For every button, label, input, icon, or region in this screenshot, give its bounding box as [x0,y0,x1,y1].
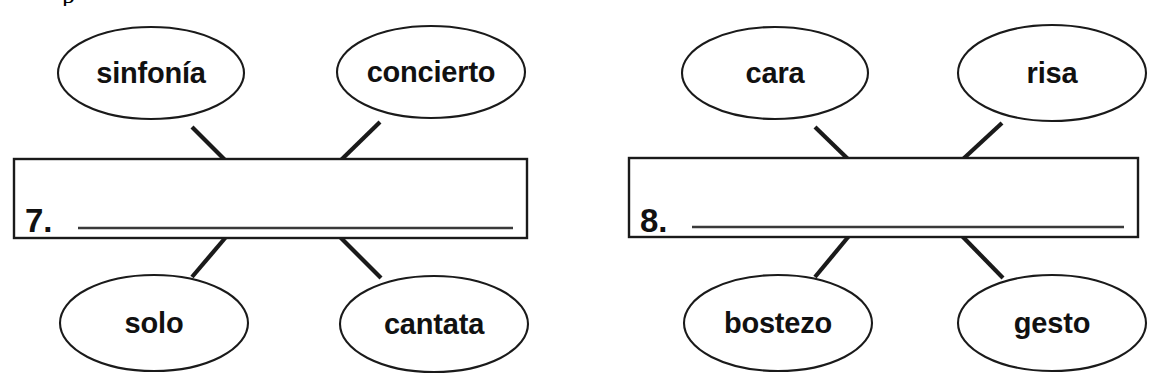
bubble-8-top-left[interactable]: cara [682,27,868,119]
connector-8-bottom-left [815,236,849,277]
answer-box-8[interactable] [629,158,1138,237]
connector-8-bottom-right [962,236,1003,278]
connector-7-bottom-left [192,237,226,277]
connector-8-top-left [815,127,849,160]
item-number-7: 7. [25,202,53,239]
word-web-diagram: 7. sinfonía concierto solo cantata [0,0,1154,390]
bubble-8-top-right[interactable]: risa [958,25,1146,121]
exercise-group-8: 8. cara risa bostezo gesto [629,25,1146,371]
bubble-label: solo [125,307,184,339]
worksheet-page: p 7. sinfonía concierto [0,0,1154,390]
bubble-label: gesto [1014,307,1090,339]
bubble-label: cantata [384,308,485,340]
item-number-8: 8. [640,202,668,239]
bubble-7-bottom-right[interactable]: cantata [340,276,528,372]
bubble-label: concierto [367,56,496,88]
bubble-7-top-right[interactable]: concierto [337,26,525,118]
bubble-label: sinfonía [96,57,207,89]
bubble-8-bottom-left[interactable]: bostezo [684,275,872,371]
exercise-group-7: 7. sinfonía concierto solo cantata [14,26,528,372]
bubble-8-bottom-right[interactable]: gesto [958,275,1146,371]
bubble-7-top-left[interactable]: sinfonía [58,27,244,119]
connector-8-top-right [962,123,1002,160]
answer-box-7[interactable] [14,159,527,238]
connector-7-top-right [340,122,380,161]
bubble-label: cara [746,57,806,89]
bubble-7-bottom-left[interactable]: solo [60,275,248,371]
connector-7-bottom-right [340,237,381,278]
bubble-label: bostezo [724,307,832,339]
connector-7-top-left [192,127,226,161]
bubble-label: risa [1027,57,1079,89]
